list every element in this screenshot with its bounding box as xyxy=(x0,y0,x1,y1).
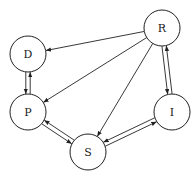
node-label: R xyxy=(158,22,167,35)
edge-s-to-p xyxy=(44,120,74,140)
edge-p-to-s xyxy=(42,124,72,144)
node-label: I xyxy=(170,106,174,119)
node-p: P xyxy=(10,94,46,130)
node-label: P xyxy=(24,106,32,119)
edge-r-to-p xyxy=(43,38,146,103)
node-label: S xyxy=(84,146,92,159)
nodes: DPRIS xyxy=(10,10,190,170)
node-i: I xyxy=(154,94,190,130)
edge-i-to-s xyxy=(103,118,154,143)
edge-r-to-d xyxy=(46,31,145,50)
node-d: D xyxy=(10,36,46,72)
node-s: S xyxy=(70,134,106,170)
edges xyxy=(26,31,172,146)
edge-s-to-i xyxy=(105,122,156,147)
node-label: D xyxy=(24,48,33,61)
graph-canvas: DPRIS xyxy=(0,0,193,179)
node-r: R xyxy=(144,10,180,46)
